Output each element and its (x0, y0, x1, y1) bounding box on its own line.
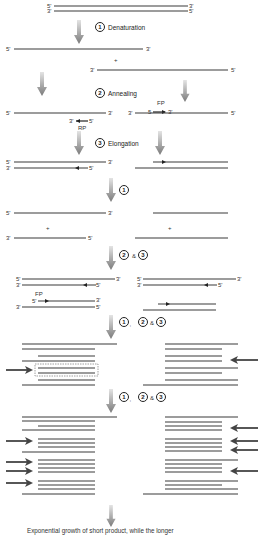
svg-text:2: 2 (141, 394, 145, 400)
svg-text:1: 1 (122, 187, 126, 193)
svg-text:3': 3' (108, 110, 112, 116)
forward-primer-label: FP (157, 100, 165, 106)
svg-text:5': 5' (6, 210, 10, 216)
svg-text:5': 5' (218, 282, 222, 288)
denatured-strands: 5' 3' + 3' 5' (6, 46, 235, 73)
svg-text:1: 1 (122, 394, 126, 400)
svg-text:3': 3' (116, 276, 120, 282)
cycle3-steps: 1 , 2 & 3 (120, 318, 166, 328)
pointer-arrow-icon (6, 479, 33, 487)
step-annealing: 2 Annealing (96, 89, 138, 98)
svg-text:3': 3' (90, 67, 94, 73)
plus-sign: + (114, 57, 118, 63)
svg-text:3': 3' (96, 297, 100, 303)
cycle3-products-left (22, 344, 117, 385)
process-arrow-icon (74, 20, 84, 44)
svg-text:3': 3' (16, 304, 20, 310)
process-arrow-icon (106, 389, 116, 413)
svg-text:3': 3' (237, 276, 241, 282)
svg-text:5': 5' (231, 110, 235, 116)
svg-text:3': 3' (146, 46, 150, 52)
step-elongation: 3 Elongation (96, 139, 140, 148)
process-arrow-icon (106, 315, 116, 339)
process-arrow-icon (106, 505, 115, 527)
cycle2-strands-right: + (135, 213, 228, 238)
svg-text:3': 3' (128, 110, 132, 116)
svg-text:3: 3 (98, 140, 102, 146)
cycle4-products-right (143, 417, 238, 494)
svg-text:3': 3' (69, 118, 73, 124)
primer-arrow-icon (76, 119, 80, 123)
cycle4-products-left (22, 417, 117, 494)
svg-text:3': 3' (108, 159, 112, 165)
pointer-arrows-right (230, 424, 258, 475)
svg-text:3: 3 (159, 394, 163, 400)
svg-text:5': 5' (88, 235, 92, 241)
process-arrow-icon (155, 131, 165, 155)
annealed-right: FP 5 3' 3' 5' (128, 100, 235, 116)
pointer-arrow-icon (6, 467, 33, 475)
label-5prime: 5' (189, 8, 193, 14)
pointer-arrow-icon (6, 437, 33, 445)
elongated-right (135, 160, 228, 168)
svg-text:&: & (150, 320, 154, 326)
cycle2-steps-2-3: 2 & 3 (120, 251, 148, 260)
pointer-arrow-icon (230, 437, 258, 445)
cycle2-step-1: 1 (120, 186, 129, 195)
pointer-arrow-icon (6, 366, 33, 374)
pointer-arrow-icon (230, 356, 258, 364)
cycle2-products-left: 5' 3' 3' 5' FP 5' 3' 3' 5' (16, 276, 120, 310)
process-arrow-icon (74, 131, 84, 155)
svg-text:3': 3' (137, 282, 141, 288)
svg-text:5': 5' (32, 298, 36, 304)
svg-text:3': 3' (6, 165, 10, 171)
process-arrow-icon (180, 80, 189, 102)
annealed-left: 5' 3' 3' 5' RP (6, 110, 112, 131)
pointer-arrow-icon (230, 446, 258, 454)
svg-text:FP: FP (35, 291, 43, 297)
svg-text:+: + (168, 225, 172, 231)
svg-text:5': 5' (89, 118, 93, 124)
svg-text:5': 5' (96, 282, 100, 288)
process-arrow-icon (106, 246, 116, 270)
svg-text:3': 3' (16, 282, 20, 288)
svg-text:3': 3' (6, 235, 10, 241)
pointer-arrow-icon (230, 467, 258, 475)
svg-text:&: & (150, 395, 154, 401)
svg-text:1: 1 (98, 24, 102, 30)
svg-text:1: 1 (122, 319, 126, 325)
reverse-primer-label: RP (78, 125, 86, 131)
svg-text:2: 2 (141, 319, 145, 325)
cycle3-products-right (143, 344, 238, 385)
svg-text:,: , (130, 321, 132, 327)
process-arrow-icon (37, 72, 47, 96)
svg-text:&: & (132, 253, 136, 259)
cycle2-strands-left: 5' 3' + 3' 5' (6, 210, 112, 241)
svg-text:5': 5' (6, 110, 10, 116)
diagram-caption: Exponential growth of short product, whi… (27, 527, 174, 534)
svg-text:5: 5 (148, 109, 152, 115)
short-product-highlight-box (35, 364, 98, 376)
cycle4-steps: 1 , 2 & 3 (120, 393, 166, 403)
svg-text:2: 2 (122, 252, 126, 258)
template-dsdna: 5' 3' 3' 5' (47, 3, 193, 14)
step-denaturation: 1 Denaturation (96, 23, 146, 32)
svg-text:5': 5' (231, 67, 235, 73)
process-arrow-icon (106, 178, 116, 202)
pcr-diagram: 5' 3' 3' 5' 1 Denaturation 5' 3' + 3' 5'… (0, 0, 261, 538)
svg-text:Denaturation: Denaturation (108, 24, 146, 31)
svg-text:3: 3 (141, 252, 145, 258)
svg-text:Annealing: Annealing (108, 90, 137, 98)
pointer-arrows-left (6, 437, 33, 487)
pointer-arrow-icon (6, 458, 33, 466)
svg-text:5': 5' (6, 46, 10, 52)
svg-text:Elongation: Elongation (108, 140, 139, 148)
svg-text:2: 2 (98, 90, 102, 96)
svg-text:5': 5' (96, 304, 100, 310)
svg-text:3': 3' (108, 210, 112, 216)
pointer-arrow-icon (230, 424, 258, 432)
svg-text:3: 3 (159, 319, 163, 325)
elongated-left: 5' 3' 3' 5' (6, 159, 112, 171)
label-3prime: 3' (47, 8, 51, 14)
cycle2-products-right: 5' 3' 3' 5' (137, 276, 241, 310)
